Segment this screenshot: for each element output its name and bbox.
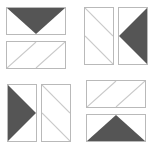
- tile-right-pointing-triangle: [7, 84, 37, 142]
- tile-parallel-diagonals-up-right: [6, 41, 66, 69]
- figure-group-top-right: [84, 7, 150, 69]
- figure-group-bottom-left: [7, 84, 73, 142]
- tile-left-pointing-triangle: [118, 7, 148, 65]
- parallel-diagonals-icon: [7, 42, 65, 68]
- tile-upward-triangle: [86, 114, 146, 142]
- puzzle-canvas: [0, 0, 156, 148]
- right-pointing-triangle-icon: [8, 85, 36, 141]
- upward-triangle-icon: [87, 115, 145, 141]
- figure-group-bottom-right: [86, 80, 148, 142]
- tile-parallel-diagonals-up-right-b: [86, 80, 146, 108]
- left-pointing-triangle-icon: [119, 8, 147, 64]
- parallel-diagonals-icon: [85, 8, 113, 64]
- parallel-diagonals-icon: [87, 81, 145, 107]
- downward-triangle-icon: [7, 8, 65, 34]
- figure-group-top-left: [6, 7, 68, 69]
- tile-parallel-diagonals-down-right-b: [41, 84, 71, 142]
- tile-downward-triangle: [6, 7, 66, 35]
- parallel-diagonals-icon: [42, 85, 70, 141]
- tile-parallel-diagonals-down-right-a: [84, 7, 114, 65]
